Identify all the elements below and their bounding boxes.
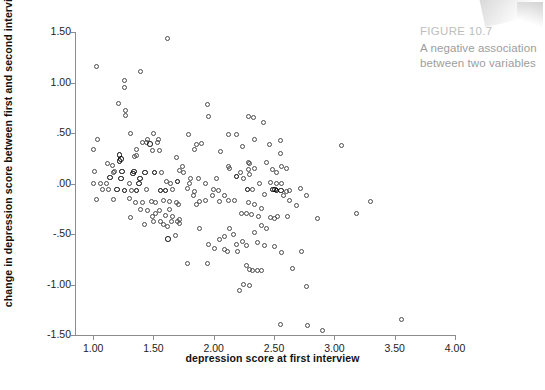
y-tick-label: -1.00 bbox=[31, 278, 71, 290]
data-point bbox=[165, 224, 170, 229]
data-point bbox=[133, 200, 138, 205]
data-point bbox=[155, 140, 160, 145]
data-point bbox=[145, 137, 150, 142]
data-point bbox=[117, 158, 123, 164]
data-point bbox=[227, 166, 232, 171]
data-point bbox=[128, 131, 133, 136]
data-point bbox=[210, 193, 215, 198]
data-point bbox=[261, 120, 266, 125]
data-point bbox=[144, 187, 149, 192]
data-point bbox=[250, 187, 255, 192]
data-point bbox=[98, 181, 103, 186]
data-point bbox=[122, 78, 127, 83]
data-point bbox=[247, 172, 252, 177]
data-point bbox=[206, 242, 211, 247]
data-point bbox=[104, 181, 109, 186]
x-tick-mark bbox=[153, 335, 154, 340]
data-point bbox=[94, 64, 99, 69]
data-point bbox=[222, 234, 227, 239]
data-point bbox=[152, 170, 158, 176]
data-point bbox=[127, 196, 132, 201]
data-point bbox=[244, 243, 249, 248]
data-point bbox=[259, 206, 264, 211]
data-point bbox=[106, 187, 111, 192]
data-point bbox=[196, 176, 201, 181]
data-point bbox=[246, 200, 251, 205]
data-point bbox=[147, 141, 153, 147]
data-point bbox=[262, 192, 267, 197]
data-point bbox=[175, 179, 181, 185]
data-point bbox=[255, 240, 260, 245]
data-point bbox=[238, 170, 243, 175]
data-point bbox=[118, 176, 124, 182]
data-point bbox=[95, 137, 100, 142]
data-point bbox=[205, 261, 210, 266]
x-axis-line bbox=[75, 335, 455, 336]
y-tick-mark bbox=[71, 133, 76, 134]
data-point bbox=[136, 181, 142, 187]
data-point bbox=[185, 186, 190, 191]
data-point bbox=[217, 199, 222, 204]
data-point bbox=[278, 138, 283, 143]
data-point bbox=[128, 215, 133, 220]
data-point bbox=[368, 199, 373, 204]
y-tick-label: 1.50 bbox=[31, 25, 71, 37]
data-point bbox=[134, 147, 139, 152]
data-point bbox=[153, 200, 158, 205]
data-point bbox=[305, 323, 310, 328]
data-point bbox=[259, 268, 264, 273]
data-point bbox=[226, 132, 231, 137]
data-point bbox=[114, 187, 120, 193]
y-tick-mark bbox=[71, 335, 76, 336]
data-point bbox=[232, 198, 237, 203]
data-point bbox=[119, 169, 125, 175]
data-point bbox=[203, 181, 208, 186]
y-axis-title: change in depression score between first… bbox=[2, 0, 14, 390]
data-point bbox=[278, 322, 283, 327]
y-tick-label: -1.50 bbox=[31, 328, 71, 340]
data-point bbox=[206, 114, 211, 119]
data-point bbox=[240, 144, 245, 149]
data-point bbox=[142, 170, 148, 176]
x-tick-mark bbox=[455, 335, 456, 340]
data-point bbox=[203, 198, 208, 203]
data-point bbox=[262, 243, 267, 248]
data-point bbox=[237, 288, 242, 293]
data-point bbox=[186, 132, 191, 137]
y-tick-mark bbox=[71, 184, 76, 185]
data-point bbox=[174, 155, 179, 160]
data-point bbox=[294, 203, 299, 208]
data-point bbox=[278, 151, 283, 156]
data-point bbox=[252, 166, 257, 171]
data-point bbox=[138, 207, 143, 212]
y-tick-label: .50 bbox=[31, 126, 71, 138]
x-tick-mark bbox=[395, 335, 396, 340]
data-point bbox=[256, 214, 261, 219]
data-point bbox=[304, 193, 309, 198]
y-tick-mark bbox=[71, 32, 76, 33]
data-point bbox=[185, 261, 190, 266]
data-point bbox=[252, 202, 257, 207]
y-tick-mark bbox=[71, 83, 76, 84]
data-point bbox=[151, 219, 156, 224]
data-point bbox=[157, 148, 162, 153]
data-point bbox=[279, 250, 284, 255]
data-point bbox=[188, 176, 193, 181]
data-point bbox=[257, 181, 262, 186]
data-point bbox=[194, 202, 199, 207]
data-point bbox=[281, 193, 286, 198]
data-point bbox=[399, 317, 404, 322]
x-tick-mark bbox=[334, 335, 335, 340]
data-point bbox=[130, 171, 136, 177]
data-point bbox=[122, 188, 128, 194]
data-point bbox=[167, 207, 172, 212]
data-point bbox=[168, 181, 173, 186]
data-point bbox=[267, 142, 272, 147]
data-point bbox=[290, 266, 295, 271]
data-point bbox=[272, 244, 277, 249]
data-point bbox=[299, 249, 304, 254]
data-point bbox=[169, 219, 174, 224]
data-point bbox=[241, 176, 246, 181]
y-tick-label: .00 bbox=[31, 177, 71, 189]
data-point bbox=[192, 147, 197, 152]
